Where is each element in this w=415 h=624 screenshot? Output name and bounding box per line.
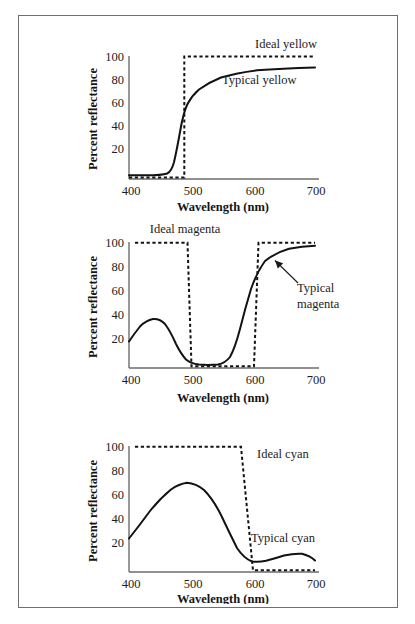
y-tick-40: 40 <box>112 119 125 133</box>
series-typical-cyan <box>129 483 315 562</box>
x-tick-700: 700 <box>307 577 326 591</box>
y-tick-80: 80 <box>112 464 125 478</box>
label-typical-yellow: Typical yellow <box>222 73 296 87</box>
y-tick-60: 60 <box>112 96 125 110</box>
x-tick-600: 600 <box>246 577 265 591</box>
y-tick-100: 100 <box>105 50 124 64</box>
label-ideal-yellow: Ideal yellow <box>255 37 317 51</box>
x-tick-700: 700 <box>307 184 326 198</box>
chart-yellow: 100 80 60 40 20 Percent reflectance Idea… <box>19 21 399 216</box>
y-tick-80: 80 <box>112 73 125 87</box>
chart-cyan: 100 80 60 40 20 Percent reflectance Idea… <box>19 414 399 604</box>
y-tick-60: 60 <box>112 488 125 502</box>
label-ideal-magenta: Ideal magenta <box>150 222 221 236</box>
series-ideal-magenta <box>135 243 315 366</box>
y-tick-80: 80 <box>112 260 125 274</box>
y-tick-20: 20 <box>112 332 125 346</box>
chart-cyan-plot: 100 80 60 40 20 Percent reflectance Idea… <box>19 414 399 604</box>
y-axis-title: Percent reflectance <box>86 68 100 170</box>
y-tick-40: 40 <box>112 308 125 322</box>
x-axis-title: Wavelength (nm) <box>177 592 269 604</box>
x-tick-400: 400 <box>122 577 141 591</box>
x-tick-600: 600 <box>246 184 265 198</box>
series-typical-magenta <box>129 246 315 365</box>
x-tick-500: 500 <box>184 373 203 387</box>
x-tick-700: 700 <box>307 373 326 387</box>
y-tick-20: 20 <box>112 142 125 156</box>
label-typical-cyan: Typical cyan <box>251 531 316 545</box>
series-ideal-cyan <box>135 447 315 571</box>
y-axis-title: Percent reflectance <box>86 256 100 358</box>
y-tick-60: 60 <box>112 284 125 298</box>
y-tick-20: 20 <box>112 536 125 550</box>
x-tick-600: 600 <box>246 373 265 387</box>
x-axis-title: Wavelength (nm) <box>177 200 269 214</box>
x-tick-500: 500 <box>184 184 203 198</box>
x-tick-500: 500 <box>184 577 203 591</box>
x-tick-400: 400 <box>122 184 141 198</box>
figure-frame: 100 80 60 40 20 Percent reflectance Idea… <box>18 15 398 608</box>
chart-magenta-plot: 100 80 60 40 20 Percent reflectance Idea… <box>19 216 399 414</box>
label-ideal-cyan: Ideal cyan <box>257 447 309 461</box>
chart-yellow-plot: 100 80 60 40 20 Percent reflectance Idea… <box>19 21 399 216</box>
y-tick-40: 40 <box>112 512 125 526</box>
x-axis-title: Wavelength (nm) <box>177 391 269 405</box>
y-tick-100: 100 <box>105 236 124 250</box>
y-tick-100: 100 <box>105 440 124 454</box>
chart-magenta: 100 80 60 40 20 Percent reflectance Idea… <box>19 216 399 414</box>
y-axis-title: Percent reflectance <box>86 460 100 562</box>
x-tick-400: 400 <box>122 373 141 387</box>
label-typical-magenta-line2: magenta <box>297 297 340 311</box>
label-typical-magenta-line1: Typical <box>297 281 335 295</box>
